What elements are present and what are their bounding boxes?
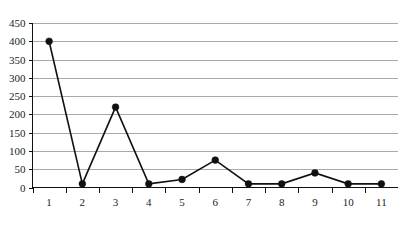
x-axis-tick-label: 1 (46, 196, 52, 208)
data-point-marker (145, 180, 152, 187)
y-axis-tick-label: 300 (9, 72, 26, 84)
data-point-marker (46, 38, 53, 45)
data-point-marker (378, 180, 385, 187)
x-axis-tick-label: 2 (80, 196, 86, 208)
data-point-marker (79, 180, 86, 187)
y-axis-tick-label: 50 (15, 163, 27, 175)
y-axis-tick-label: 150 (9, 127, 26, 139)
x-axis-tick-label: 6 (213, 196, 219, 208)
chart-plot-area: 050100150200250300350400450 123456789101… (0, 0, 406, 228)
line-chart: 050100150200250300350400450 123456789101… (0, 0, 406, 228)
x-axis-tick-label: 10 (343, 196, 355, 208)
data-point-marker (212, 157, 219, 164)
y-axis-tick-label: 350 (9, 54, 26, 66)
y-axis-tick-label: 200 (9, 108, 26, 120)
x-axis-tick-label: 4 (146, 196, 152, 208)
caption-strip (0, 221, 406, 228)
x-axis-labels: 1234567891011 (46, 196, 386, 208)
x-axis-tick-label: 5 (179, 196, 185, 208)
y-axis-tick-label: 0 (20, 182, 26, 194)
x-axis-ticks (34, 188, 366, 193)
data-point-marker (312, 169, 319, 176)
data-point-marker (112, 104, 119, 111)
x-axis-tick-label: 7 (246, 196, 252, 208)
x-axis-tick-label: 11 (376, 196, 387, 208)
y-axis-tick-label: 450 (9, 17, 26, 29)
y-axis-labels: 050100150200250300350400450 (9, 17, 26, 194)
y-axis-tick-label: 100 (9, 145, 26, 157)
data-point-marker (278, 180, 285, 187)
x-axis-tick-label: 3 (113, 196, 119, 208)
x-axis-tick-label: 9 (312, 196, 318, 208)
y-axis-tick-label: 400 (9, 35, 26, 47)
y-axis-tick-label: 250 (9, 90, 26, 102)
data-point-marker (245, 180, 252, 187)
x-axis-tick-label: 8 (279, 196, 285, 208)
data-point-marker (179, 176, 186, 183)
data-point-marker (345, 180, 352, 187)
gridlines (33, 24, 399, 170)
